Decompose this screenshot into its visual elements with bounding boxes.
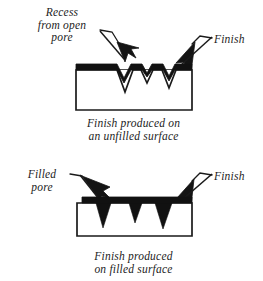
filled-finish-layer (82, 197, 192, 203)
finish-label-filled: Finish (214, 170, 260, 183)
filled-pore-label: Filled pore (16, 168, 68, 193)
filled-diagram-svg (0, 0, 263, 281)
figure-root: Recess from open pore Finish Finish prod… (0, 0, 263, 281)
caption-filled: Finish produced on filled surface (56, 250, 211, 276)
